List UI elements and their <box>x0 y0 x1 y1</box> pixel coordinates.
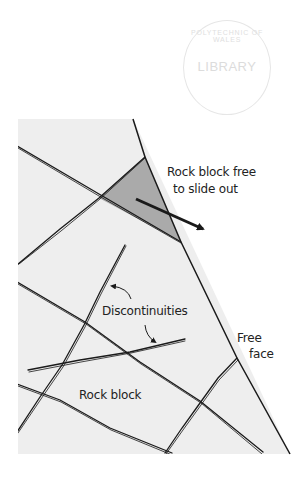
rock-slope-diagram <box>0 0 305 487</box>
free-face-label-line2: face <box>249 347 274 362</box>
free-block-label-line1: Rock block free <box>167 165 256 180</box>
discontinuities-label: Discontinuities <box>102 304 188 319</box>
free-block-label-line2: to slide out <box>173 182 238 197</box>
free-face-label-line1: Free <box>237 331 262 346</box>
rock-block-label: Rock block <box>79 388 141 403</box>
